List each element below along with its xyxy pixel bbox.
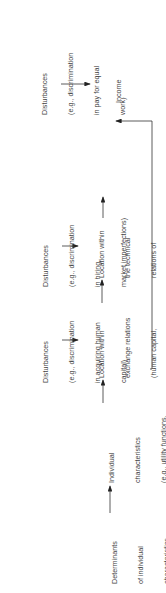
node-line: characteristics (134, 415, 143, 483)
node-line: Disturbances (41, 53, 50, 115)
node-individual: Individual characteristics (e.g., utilit… (91, 415, 166, 483)
node-line: Location within (98, 230, 107, 278)
node-line: Disturbances (42, 321, 51, 383)
node-line: (e.g., discrimination (67, 53, 76, 115)
node-technical-relations: Location within the technical relations … (81, 230, 166, 278)
node-line: Income (115, 79, 124, 103)
node-determinants: Determinants of individual characteristi… (94, 528, 166, 584)
node-line: Location within (98, 318, 107, 378)
node-line: relations of (150, 230, 159, 278)
node-line: the technical (124, 230, 133, 278)
node-line: Determinants (111, 528, 120, 584)
node-line: (e.g., utility functions, (160, 415, 166, 483)
node-line: (e.g., discrimination (68, 321, 77, 383)
node-line: of individual (137, 528, 146, 584)
diagram-canvas: Determinants of individual characteristi… (0, 0, 166, 593)
node-line: (e.g., discrimination (68, 218, 77, 287)
node-line: Individual (108, 415, 117, 483)
node-line: characteristics (163, 528, 166, 584)
node-line: (human capital, (150, 318, 159, 378)
node-exchange-relations: Location within exchange relations (huma… (81, 318, 166, 378)
node-income: Income (98, 79, 141, 103)
node-line: exchange relations (124, 318, 133, 378)
node-line: Disturbances (42, 218, 51, 287)
